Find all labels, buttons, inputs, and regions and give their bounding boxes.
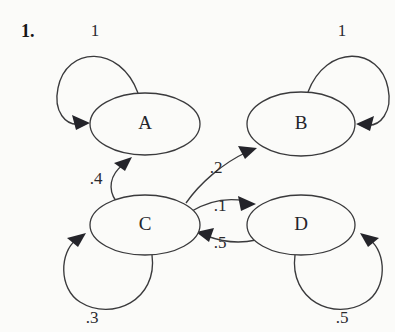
node-d[interactable]: D — [247, 195, 355, 255]
edge-label-c-to-b: .2 — [210, 158, 223, 177]
edge-label-b-to-b: 1 — [338, 21, 347, 40]
edge-c-to-d-arrowhead — [238, 196, 256, 211]
node-a-label: A — [138, 112, 152, 133]
node-a[interactable]: A — [90, 93, 200, 155]
node-b[interactable]: B — [247, 92, 355, 156]
item-number: 1. — [21, 21, 35, 41]
node-d-label: D — [294, 213, 308, 234]
edge-label-a-to-a: 1 — [91, 21, 100, 40]
edge-c-to-a-path — [111, 164, 124, 201]
edge-c-to-a — [111, 157, 132, 201]
edge-a-to-a-arrowhead — [72, 115, 90, 130]
edge-label-c-to-c: .3 — [86, 308, 99, 327]
edge-c-to-a-arrowhead — [114, 157, 132, 171]
edge-label-d-to-d: .5 — [336, 308, 349, 327]
edge-label-c-to-d: .1 — [214, 196, 227, 215]
edge-c-to-c-arrowhead — [67, 233, 86, 247]
node-c-label: C — [139, 213, 152, 234]
node-c[interactable]: C — [90, 195, 200, 255]
edge-b-to-b-arrowhead — [356, 116, 374, 131]
edge-c-to-b-arrowhead — [238, 146, 257, 159]
edge-label-c-to-a: .4 — [90, 169, 103, 188]
diagram-canvas: A B C D 1 1 .4 .2 .1 .5 .3 .5 1. — [0, 0, 395, 332]
edge-label-d-to-c: .5 — [214, 233, 227, 252]
markov-chain-figure: A B C D 1 1 .4 .2 .1 .5 .3 .5 1. — [0, 0, 395, 332]
edge-d-to-d-arrowhead — [360, 233, 379, 247]
node-b-label: B — [295, 112, 308, 133]
